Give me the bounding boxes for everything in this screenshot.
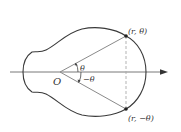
origin-label: O <box>53 76 61 87</box>
ray-theta <box>60 36 126 72</box>
axis-arrow-icon <box>160 69 168 74</box>
point-r-minus-theta <box>124 107 128 111</box>
polar-symmetry-diagram: O (r, θ) (r, −θ) θ −θ <box>0 0 181 132</box>
angle-theta-label: θ <box>80 64 85 73</box>
angle-minus-theta-label: −θ <box>83 75 95 84</box>
lower-point-label: (r, −θ) <box>128 114 154 123</box>
upper-point-label: (r, θ) <box>128 27 147 36</box>
